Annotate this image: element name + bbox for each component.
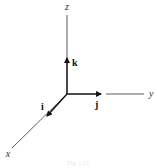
i-vector-label: i xyxy=(41,101,44,112)
z-axis-label: z xyxy=(64,1,69,12)
figure-caption: Fig. 1.15 xyxy=(67,160,89,166)
k-vector-label: k xyxy=(72,57,78,68)
coordinate-diagram: z y x k j i Fig. 1.15 xyxy=(0,0,157,168)
x-axis-label: x xyxy=(5,148,11,159)
i-unit-vector-arrow xyxy=(47,94,67,116)
axes-svg: z y x k j i Fig. 1.15 xyxy=(0,0,157,168)
x-axis-line xyxy=(12,94,67,148)
y-axis-label: y xyxy=(148,88,154,99)
j-vector-label: j xyxy=(94,99,98,110)
